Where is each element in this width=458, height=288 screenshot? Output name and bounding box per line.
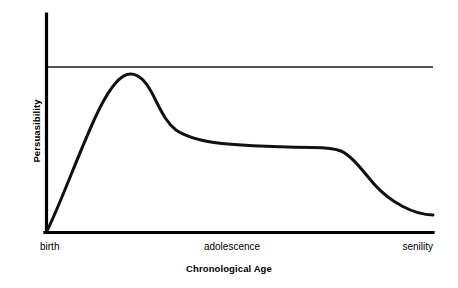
persuasibility-chart-figure: Persuasibility birth adolescence senilit…: [0, 0, 458, 288]
x-tick-label-senility: senility: [353, 241, 433, 252]
persuasibility-curve: [47, 74, 433, 231]
x-tick-label-birth: birth: [40, 241, 59, 252]
y-axis-title: Persuasibility: [31, 71, 42, 191]
x-tick-label-adolescence: adolescence: [172, 241, 292, 252]
x-axis-title: Chronological Age: [0, 263, 458, 274]
